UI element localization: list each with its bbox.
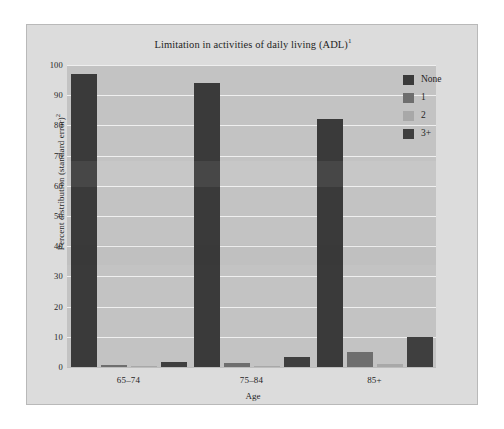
- y-tick-label-30: 30: [33, 271, 63, 281]
- chart-title: Limitation in activities of daily living…: [27, 37, 479, 50]
- legend-swatch-icon: [403, 129, 414, 139]
- x-tick-label-65-74: 65–74: [67, 375, 190, 385]
- legend-swatch-icon: [403, 111, 414, 121]
- x-tick-label-75-84: 75–84: [190, 375, 313, 385]
- legend-item-1[interactable]: 1: [403, 89, 471, 107]
- legend-item-none[interactable]: None: [403, 71, 471, 89]
- legend-item-label: 3+: [421, 129, 431, 139]
- bar-65-74-None[interactable]: [71, 74, 97, 367]
- chart-legend: None123+: [403, 71, 471, 143]
- bar-75-84-3plus[interactable]: [284, 357, 310, 367]
- y-tick-label-100: 100: [33, 60, 63, 70]
- y-tick-label-80: 80: [33, 120, 63, 130]
- chart-title-text: Limitation in activities of daily living…: [154, 39, 348, 50]
- y-tick-label-40: 40: [33, 241, 63, 251]
- legend-swatch-icon: [403, 75, 414, 85]
- figure-card: Limitation in activities of daily living…: [26, 24, 478, 405]
- y-tick-label-10: 10: [33, 332, 63, 342]
- y-tick-label-70: 70: [33, 151, 63, 161]
- y-tick-label-20: 20: [33, 302, 63, 312]
- legend-item-label: 1: [421, 93, 426, 103]
- x-tick-label-85+: 85+: [313, 375, 436, 385]
- x-axis-title: Age: [27, 391, 479, 401]
- y-tick-label-0: 0: [33, 362, 63, 372]
- gridline-0: [67, 367, 436, 368]
- legend-item-3plus[interactable]: 3+: [403, 125, 471, 143]
- bar-85+-1[interactable]: [347, 352, 373, 367]
- bar-85+-3plus[interactable]: [407, 337, 433, 367]
- y-tick-label-50: 50: [33, 211, 63, 221]
- bar-75-84-2[interactable]: [254, 366, 280, 368]
- bar-group-65-74: [71, 65, 187, 367]
- bar-65-74-1[interactable]: [101, 365, 127, 367]
- chart-title-footnote-marker: 1: [348, 37, 352, 45]
- bar-75-84-1[interactable]: [224, 363, 250, 367]
- y-tick-label-60: 60: [33, 181, 63, 191]
- legend-item-label: None: [421, 75, 442, 85]
- bar-75-84-None[interactable]: [194, 83, 220, 367]
- y-tick-label-90: 90: [33, 90, 63, 100]
- legend-item-label: 2: [421, 111, 426, 121]
- bar-85+-2[interactable]: [377, 364, 403, 367]
- bar-65-74-3plus[interactable]: [161, 362, 187, 367]
- bar-65-74-2[interactable]: [131, 366, 157, 368]
- plot-area: [67, 65, 436, 367]
- legend-swatch-icon: [403, 93, 414, 103]
- bar-85+-None[interactable]: [317, 119, 343, 367]
- bar-group-75-84: [194, 65, 310, 367]
- y-axis-footnote-marker: 2: [54, 114, 61, 117]
- legend-item-2[interactable]: 2: [403, 107, 471, 125]
